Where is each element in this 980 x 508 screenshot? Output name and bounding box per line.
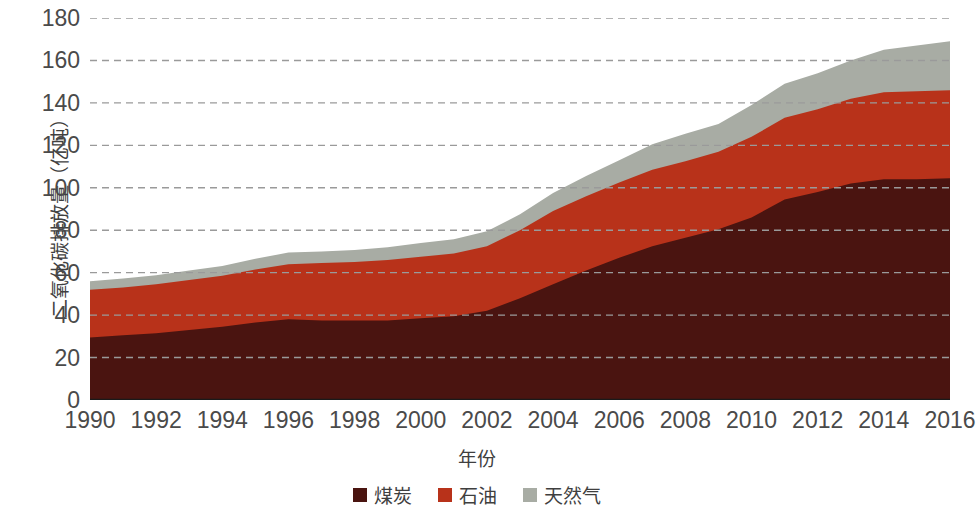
- x-axis-tick-label: 2016: [905, 409, 980, 432]
- chart-legend: 煤炭石油天然气: [0, 481, 953, 508]
- y-axis-tick-label: 100: [14, 177, 80, 200]
- legend-label: 煤炭: [374, 481, 412, 508]
- plot-svg: [90, 18, 950, 400]
- y-axis-tick-label: 120: [14, 134, 80, 157]
- legend-swatch-icon: [523, 488, 537, 502]
- y-axis-tick-label: 60: [14, 262, 80, 285]
- y-axis-tick-label: 80: [14, 219, 80, 242]
- legend-item[interactable]: 天然气: [523, 481, 601, 508]
- y-axis-tick-label: 40: [14, 304, 80, 327]
- legend-item[interactable]: 煤炭: [353, 481, 412, 508]
- legend-label: 石油: [459, 481, 497, 508]
- y-axis-tick-label: 140: [14, 92, 80, 115]
- legend-label: 天然气: [544, 481, 601, 508]
- legend-item[interactable]: 石油: [438, 481, 497, 508]
- y-axis-tick-label: 160: [14, 49, 80, 72]
- x-axis-tick-labels: 1990199219941996199820002002200420062008…: [0, 409, 953, 441]
- x-axis-title: 年份: [0, 444, 953, 471]
- y-axis-tick-label: 180: [14, 7, 80, 30]
- legend-swatch-icon: [353, 488, 367, 502]
- y-axis-tick-labels: 180160140120100806040200: [14, 0, 80, 400]
- y-axis-tick-label: 20: [14, 347, 80, 370]
- legend-swatch-icon: [438, 488, 452, 502]
- plot-area: [90, 18, 950, 400]
